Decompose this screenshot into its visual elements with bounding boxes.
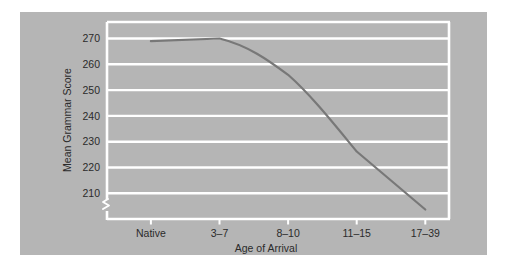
x-axis-title: Age of Arrival [235, 242, 297, 254]
plot-area-background [107, 21, 450, 219]
y-tick-label-220: 220 [82, 161, 100, 173]
y-tick-label-240: 240 [82, 110, 100, 122]
x-tick-label-17-39: 17–39 [411, 227, 440, 239]
y-tick-label-210: 210 [82, 187, 100, 199]
figure-container: 270 260 250 240 230 220 210 Native 3–7 8… [0, 0, 507, 272]
y-tick-label-250: 250 [82, 84, 100, 96]
x-axis-tick-labels: Native 3–7 8–10 11–15 17–39 [136, 227, 440, 239]
y-tick-label-230: 230 [82, 135, 100, 147]
x-tick-label-3-7: 3–7 [211, 227, 229, 239]
line-chart: 270 260 250 240 230 220 210 Native 3–7 8… [0, 0, 507, 272]
y-tick-label-260: 260 [82, 58, 100, 70]
x-tick-label-8-10: 8–10 [276, 227, 300, 239]
x-tick-label-11-15: 11–15 [342, 227, 371, 239]
y-axis-tick-labels: 270 260 250 240 230 220 210 [82, 32, 100, 199]
x-tick-label-native: Native [136, 227, 166, 239]
y-axis-title: Mean Grammar Score [61, 68, 73, 172]
y-tick-label-270: 270 [82, 32, 100, 44]
